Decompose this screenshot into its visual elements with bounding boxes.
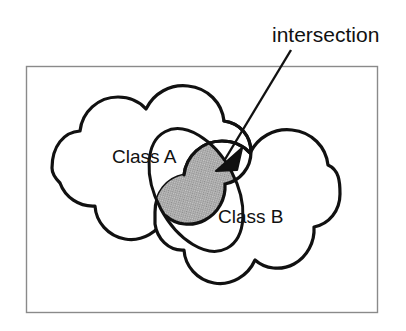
callout-label: intersection — [272, 23, 379, 46]
class-a-label: Class A — [112, 146, 177, 167]
diagram-root: intersection Class A Class B — [0, 0, 406, 331]
class-b-label: Class B — [218, 206, 283, 227]
diagram-canvas: intersection Class A Class B — [0, 0, 406, 331]
